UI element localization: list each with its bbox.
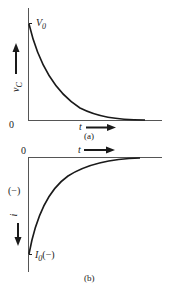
panel-b-caption: (b)	[84, 273, 95, 283]
vc-sub: C	[15, 82, 24, 87]
panel-a-decay-curve	[29, 24, 145, 120]
panel-b-rise-curve	[29, 158, 140, 254]
panel-b-x-arrow-icon	[106, 147, 115, 154]
panel-a-caption: (a)	[84, 131, 94, 141]
panel-a-v0-label: V0	[36, 18, 46, 32]
panel-a-t-label: t	[79, 122, 82, 132]
panel-b-sign-label: (−)	[8, 186, 20, 196]
i0-suffix: (−)	[42, 249, 54, 260]
panel-b-i0-label: I0(−)	[35, 250, 55, 264]
panel-b-y-label: i	[9, 214, 19, 217]
panel-b-origin-label: 0	[21, 146, 26, 156]
panel-b-y-arrow-icon	[15, 237, 22, 246]
panel-a-y-arrow-icon	[13, 43, 20, 52]
v0-sub: 0	[42, 22, 46, 31]
panel-b-t-label: t	[78, 145, 81, 155]
panel-a-x-arrow-icon	[107, 124, 116, 131]
vc-main: v	[10, 88, 21, 92]
panel-a-origin-label: 0	[9, 120, 14, 130]
panel-a-y-label: vC	[11, 82, 25, 92]
